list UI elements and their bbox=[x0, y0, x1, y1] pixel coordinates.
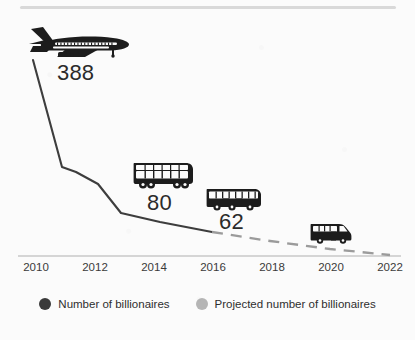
chart-page: 388 bbox=[0, 0, 415, 340]
legend-item-projected[interactable]: Projected number of billionaires bbox=[196, 298, 376, 310]
legend-label-projected: Projected number of billionaires bbox=[215, 298, 376, 310]
legend-dot-actual-icon bbox=[39, 298, 51, 310]
x-tick-label-2012: 2012 bbox=[82, 261, 108, 273]
x-tick-label-2016: 2016 bbox=[200, 261, 226, 273]
x-tick-label-2014: 2014 bbox=[141, 261, 167, 273]
x-tick-label-2018: 2018 bbox=[259, 261, 285, 273]
minibus-icon bbox=[310, 222, 352, 248]
transit-bus-value-label: 62 bbox=[219, 209, 244, 235]
coach-bus-value-label: 80 bbox=[147, 190, 172, 216]
legend-dot-projected-icon bbox=[196, 298, 208, 310]
x-tick-label-2022: 2022 bbox=[377, 261, 403, 273]
x-tick-label-2020: 2020 bbox=[318, 261, 344, 273]
series-line-projected bbox=[212, 232, 390, 255]
coach-bus-icon bbox=[133, 160, 195, 194]
airplane-value-label: 388 bbox=[57, 60, 94, 86]
chart-legend: Number of billionaires Projected number … bbox=[0, 298, 415, 310]
x-tick-label-2010: 2010 bbox=[23, 261, 49, 273]
legend-item-actual[interactable]: Number of billionaires bbox=[39, 298, 169, 310]
legend-label-actual: Number of billionaires bbox=[58, 298, 169, 310]
